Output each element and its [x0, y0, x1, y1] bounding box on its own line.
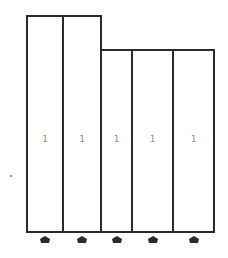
column-label: 1	[150, 135, 155, 144]
column-divider	[62, 15, 64, 233]
column-top-edge	[131, 49, 174, 51]
column-top-edge	[26, 15, 64, 17]
column-top-edge	[62, 15, 102, 17]
column-divider	[131, 49, 133, 233]
up-marker-icon	[189, 236, 199, 243]
column-label: 1	[42, 135, 47, 144]
up-marker-icon	[112, 236, 122, 243]
stray-dot	[10, 175, 12, 177]
column-top-edge	[100, 49, 133, 51]
column-divider	[26, 15, 28, 233]
up-marker-icon	[148, 236, 158, 243]
column-divider	[100, 15, 102, 233]
column-top-edge	[172, 49, 215, 51]
column-divider	[172, 49, 174, 233]
up-marker-icon	[40, 236, 50, 243]
baseline	[26, 231, 215, 233]
up-marker-icon	[77, 236, 87, 243]
column-label: 1	[79, 135, 84, 144]
column-right-edge	[213, 49, 215, 233]
column-label: 1	[114, 135, 119, 144]
column-label: 1	[191, 135, 196, 144]
